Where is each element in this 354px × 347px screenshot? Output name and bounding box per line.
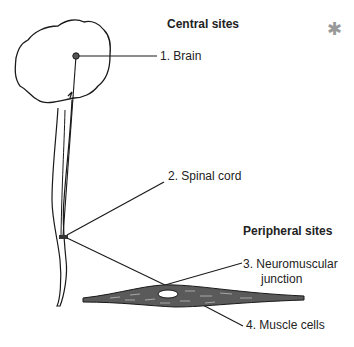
nucleus — [158, 290, 178, 298]
muscle-cell — [83, 285, 304, 307]
brain-outline — [15, 20, 110, 103]
label-muscle-cells: 4. Muscle cells — [246, 318, 325, 332]
asterisk-mark: ✱ — [327, 18, 342, 40]
label-neuromuscular: 3. Neuromuscular — [243, 257, 338, 271]
spinal-leader — [67, 182, 164, 235]
nmj-nerve — [67, 238, 165, 285]
spinal-site-marker — [59, 235, 68, 239]
label-brain: 1. Brain — [160, 49, 201, 63]
label-junction: junction — [261, 272, 302, 286]
brain-site-dot — [73, 53, 79, 59]
heading-peripheral-sites: Peripheral sites — [243, 224, 332, 238]
label-spinal-cord: 2. Spinal cord — [168, 169, 241, 183]
nmj-leader — [165, 263, 242, 285]
heading-central-sites: Central sites — [167, 17, 239, 31]
